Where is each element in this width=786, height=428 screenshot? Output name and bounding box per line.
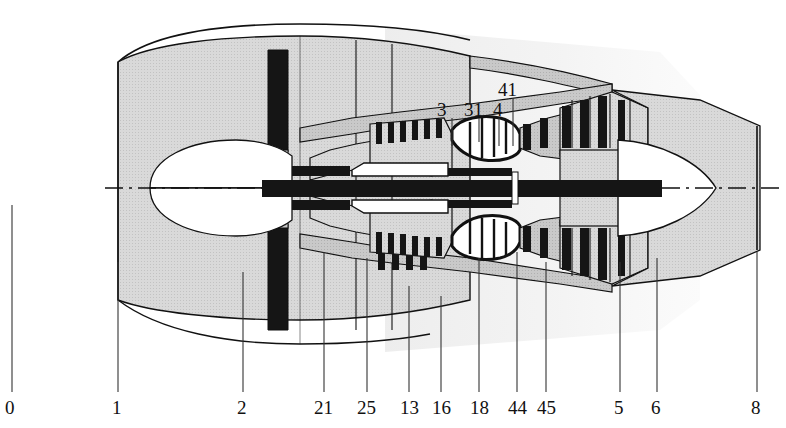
engine-cross-section-svg [0, 0, 786, 428]
station-2-label: 2 [237, 398, 247, 417]
station-3-label: 3 [437, 100, 447, 119]
station-25-label: 25 [357, 398, 376, 417]
station-18-label: 18 [470, 398, 489, 417]
station-4-label: 4 [493, 100, 503, 119]
station-31-label: 31 [464, 100, 483, 119]
station-44-label: 44 [508, 398, 527, 417]
station-0-label: 0 [5, 398, 15, 417]
station-5-label: 5 [614, 398, 624, 417]
station-13-label: 13 [400, 398, 419, 417]
station-41-label: 41 [498, 80, 517, 99]
diagram-canvas: 01221251316184445568 331441 [0, 0, 786, 428]
station-45-label: 45 [537, 398, 556, 417]
station-8-label: 8 [751, 398, 761, 417]
station-1-label: 1 [112, 398, 122, 417]
station-6-label: 6 [651, 398, 661, 417]
station-21-label: 21 [314, 398, 333, 417]
station-16-label: 16 [432, 398, 451, 417]
